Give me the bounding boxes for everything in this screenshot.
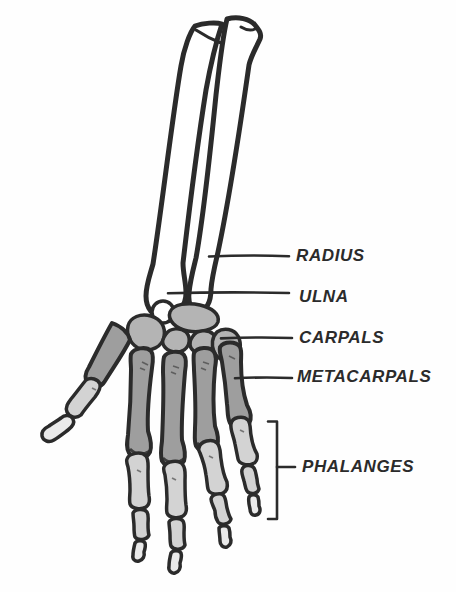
phalanges-bracket — [268, 422, 277, 520]
label-carpals: CARPALS — [299, 328, 384, 348]
label-metacarpals: METACARPALS — [297, 367, 431, 387]
radius-leader-line — [209, 256, 289, 257]
label-phalanges: PHALANGES — [302, 457, 414, 477]
label-ulna: ULNA — [299, 287, 349, 307]
metacarpals-leader-line — [235, 377, 292, 378]
label-radius: RADIUS — [296, 246, 365, 266]
diagram-canvas: RADIUS ULNA CARPALS METACARPALS PHALANGE… — [0, 0, 456, 592]
carpals-leader-line — [221, 337, 292, 338]
hand-skeleton-illustration — [0, 0, 456, 592]
ulna-leader-line — [168, 292, 289, 293]
